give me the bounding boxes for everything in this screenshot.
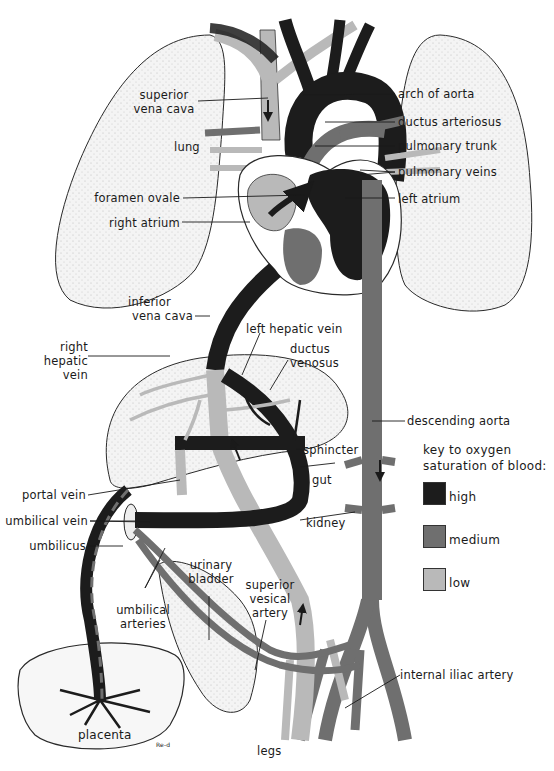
key-title: key to oxygen saturation of blood: bbox=[423, 442, 548, 474]
label-left-atrium: left atrium bbox=[398, 192, 460, 206]
label-ductus-arteriosus: ductus arteriosus bbox=[398, 115, 501, 129]
label-kidney: kidney bbox=[306, 516, 346, 530]
label-superior-vena-cava: superior vena cava bbox=[128, 88, 200, 116]
label-placenta: placenta bbox=[78, 728, 132, 742]
swatch-medium bbox=[423, 525, 446, 548]
label-internal-iliac-artery: internal iliac artery bbox=[400, 668, 513, 682]
label-pulmonary-veins: pulmonary veins bbox=[398, 165, 497, 179]
swatch-high bbox=[423, 482, 446, 505]
label-legs: legs bbox=[257, 744, 281, 758]
label-gut: gut bbox=[312, 473, 332, 487]
right-lung bbox=[56, 35, 225, 308]
label-right-hepatic-vein: right hepatic vein bbox=[20, 340, 88, 382]
label-sphincter: sphincter bbox=[303, 443, 359, 457]
label-urinary-bladder: urinary bladder bbox=[186, 558, 236, 586]
label-ductus-venosus: ductus venosus bbox=[290, 342, 339, 370]
label-descending-aorta: descending aorta bbox=[407, 414, 510, 428]
label-umbilical-arteries: umbilical arteries bbox=[110, 603, 176, 631]
label-foramen-ovale: foramen ovale bbox=[80, 191, 180, 205]
label-signature: Re-d bbox=[156, 738, 170, 752]
label-superior-vesical-artery: superior vesical artery bbox=[244, 578, 296, 620]
label-inferior-vena-cava: inferior vena cava bbox=[128, 295, 198, 323]
label-pulmonary-trunk: pulmonary trunk bbox=[398, 139, 497, 153]
label-umbilicus: umbilicus bbox=[10, 539, 86, 553]
label-left-hepatic-vein: left hepatic vein bbox=[246, 322, 342, 336]
label-right-atrium: right atrium bbox=[80, 216, 180, 230]
label-lung: lung bbox=[174, 140, 200, 154]
label-portal-vein: portal vein bbox=[10, 488, 86, 502]
label-arch-of-aorta: arch of aorta bbox=[398, 87, 475, 101]
oxygen-saturation-key: key to oxygen saturation of blood: high … bbox=[423, 442, 548, 474]
swatch-low bbox=[423, 568, 446, 591]
label-umbilical-vein: umbilical vein bbox=[0, 514, 88, 528]
fetal-circulation-diagram: superior vena cava lung foramen ovale ri… bbox=[0, 0, 554, 771]
